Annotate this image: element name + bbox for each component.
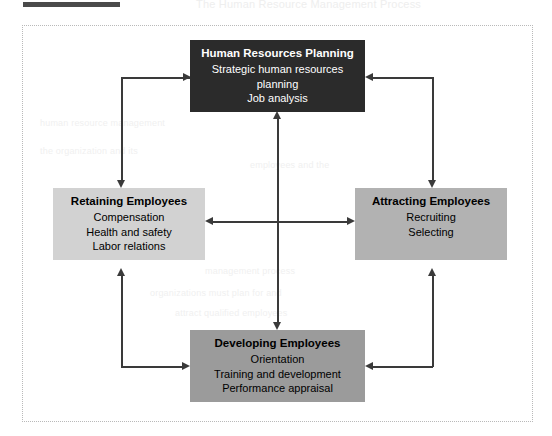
arrowhead-center-up: [273, 111, 281, 119]
arrowhead-center-right: [347, 217, 355, 225]
node-retaining-employees[interactable]: Retaining Employees Compensation Health …: [53, 188, 205, 260]
node-line: Compensation: [53, 210, 205, 225]
connector-developing-retaining-vertical: [121, 276, 123, 367]
node-line: Performance appraisal: [190, 381, 365, 396]
node-title: Human Resources Planning: [190, 46, 365, 61]
node-line: Orientation: [190, 352, 365, 367]
node-attracting-employees[interactable]: Attracting Employees Recruiting Selectin…: [355, 188, 507, 260]
arrowhead-right-into-developing: [182, 362, 190, 370]
bleed-text-title: The Human Resource Management Process: [196, 0, 421, 10]
node-human-resources-planning[interactable]: Human Resources Planning Strategic human…: [190, 40, 365, 112]
arrowhead-down-into-retaining: [117, 180, 125, 188]
arrowhead-left-into-hrp: [365, 73, 373, 81]
connector-developing-retaining-horizontal: [121, 366, 182, 368]
connector-developing-attracting-horizontal: [373, 366, 433, 368]
connector-hrp-attracting-horizontal: [372, 77, 433, 79]
node-developing-employees[interactable]: Developing Employees Orientation Trainin…: [190, 330, 365, 402]
connector-hrp-retaining-vertical: [121, 77, 123, 180]
node-line: Labor relations: [53, 239, 205, 254]
node-line: Selecting: [355, 225, 507, 240]
arrowhead-left-into-developing: [365, 362, 373, 370]
node-title: Retaining Employees: [53, 194, 205, 209]
connector-hrp-attracting-vertical: [432, 77, 434, 180]
node-title: Developing Employees: [190, 336, 365, 351]
node-title: Attracting Employees: [355, 194, 507, 209]
arrowhead-up-into-attracting: [428, 268, 436, 276]
connector-hrp-retaining-horizontal: [122, 77, 190, 79]
connector-center-horizontal: [211, 221, 349, 223]
arrowhead-up-into-retaining: [117, 268, 125, 276]
connector-center-vertical: [277, 118, 279, 323]
node-line: Strategic human resources: [190, 62, 365, 77]
connector-developing-attracting-vertical: [432, 276, 434, 367]
arrowhead-center-down: [273, 322, 281, 330]
node-line: Recruiting: [355, 210, 507, 225]
node-line: Job analysis: [190, 91, 365, 106]
page-header-bar: [23, 2, 120, 7]
node-line: Health and safety: [53, 225, 205, 240]
arrowhead-center-left: [205, 217, 213, 225]
node-line: planning: [190, 77, 365, 92]
node-line: Training and development: [190, 367, 365, 382]
arrowhead-down-into-attracting: [428, 180, 436, 188]
